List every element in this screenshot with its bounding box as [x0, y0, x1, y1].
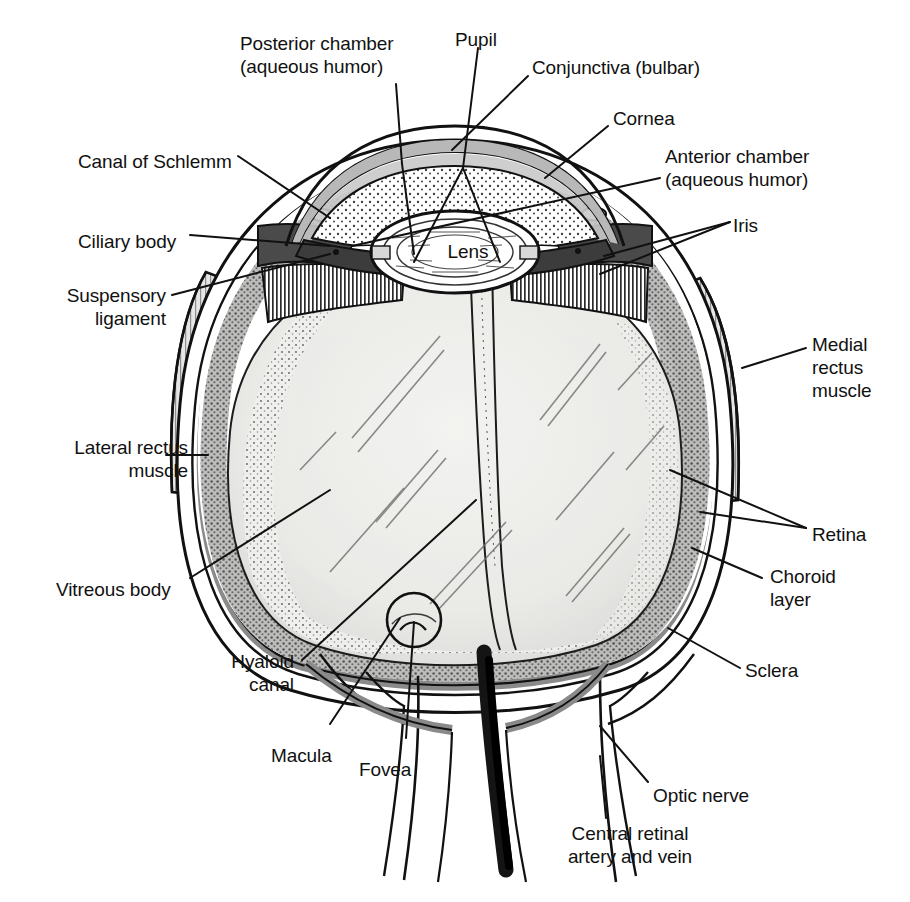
- label-posterior-chamber: Posterior chamber (aqueous humor): [240, 32, 394, 78]
- label-canal-of-schlemm: Canal of Schlemm: [78, 150, 232, 173]
- label-suspensory-ligament: Suspensory ligament: [46, 284, 166, 330]
- label-macula: Macula: [271, 744, 332, 767]
- label-hyaloid-canal: Hyaloid canal: [188, 650, 294, 696]
- label-choroid-layer: Choroid layer: [770, 565, 836, 611]
- label-fovea: Fovea: [359, 758, 411, 781]
- label-optic-nerve: Optic nerve: [653, 784, 749, 807]
- eye-diagram-canvas: Posterior chamber (aqueous humor) Pupil …: [0, 0, 910, 902]
- vitreous-body-shape: [228, 256, 682, 665]
- label-pupil: Pupil: [455, 28, 497, 51]
- label-cornea: Cornea: [613, 107, 675, 130]
- label-central-retinal-vessels: Central retinal artery and vein: [520, 822, 740, 868]
- label-medial-rectus-muscle: Medial rectus muscle: [812, 333, 872, 402]
- label-iris: Iris: [733, 214, 758, 237]
- label-lens: Lens: [418, 240, 518, 263]
- label-retina: Retina: [812, 523, 866, 546]
- label-vitreous-body: Vitreous body: [56, 578, 171, 601]
- label-conjunctiva: Conjunctiva (bulbar): [532, 56, 700, 79]
- label-ciliary-body: Ciliary body: [78, 230, 176, 253]
- label-anterior-chamber: Anterior chamber (aqueous humor): [665, 145, 809, 191]
- label-lateral-rectus-muscle: Lateral rectus muscle: [36, 436, 188, 482]
- label-sclera: Sclera: [745, 659, 798, 682]
